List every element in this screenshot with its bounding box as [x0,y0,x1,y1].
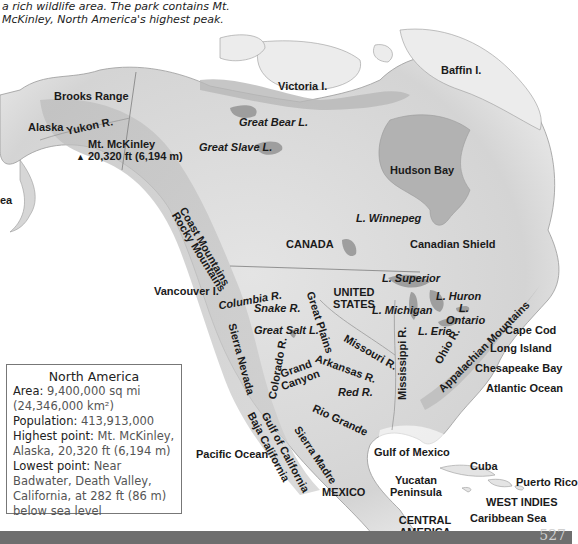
label-pacific-ocean: Pacific Ocean [196,448,268,460]
label-great-slave-lake: Great Slave L. [199,141,272,153]
label-yucatan-peninsula: Yucatan Peninsula [386,474,446,498]
label-canada: CANADA [286,238,334,250]
lake-ontario-text: L. Ontario [446,302,482,326]
label-cuba: Cuba [470,460,498,472]
factbox-title: North America [13,369,175,384]
fact-box: North America Area: 9,400,000 sq mi (24,… [6,364,182,514]
map-caption: a rich wildlife area. The park contains … [2,0,232,26]
label-alaska: Alaska [28,121,63,133]
label-snake-river: Snake R. [254,302,300,314]
label-west-indies: WEST INDIES [486,496,558,508]
factbox-area: Area: 9,400,000 sq mi (24,346,000 km²) [13,384,175,414]
peak-triangle-icon: ▲ [76,152,85,162]
area-label: Area: [13,384,43,398]
arctic-island-small [373,45,392,62]
label-puerto-rico: Puerto Rico [516,476,578,488]
label-red-river: Red R. [338,386,373,398]
label-great-salt-lake: Great Salt L. [254,324,319,336]
label-lake-huron: L. Huron [436,290,481,302]
mckinley-elevation-text: 20,320 ft (6,194 m) [88,150,183,162]
label-baffin-island: Baffin I. [441,64,481,76]
label-hudson-bay: Hudson Bay [390,164,454,176]
label-lake-michigan: L. Michigan [372,304,433,316]
label-mt-mckinley: Mt. McKinley [88,138,155,150]
page-number: 527 [539,527,566,543]
united-states-text: UNITED STATES [330,286,378,310]
label-lake-ontario: L. Ontario [446,302,482,326]
label-mexico: MEXICO [322,486,365,498]
label-sea-partial: ea [0,194,12,206]
factbox-lowest: Lowest point: Near Badwater, Death Valle… [13,459,175,519]
lowest-label: Lowest point: [13,459,90,473]
label-vancouver-island: Vancouver I. [154,285,219,297]
label-atlantic-ocean: Atlantic Ocean [486,382,563,394]
page-footer-bar [0,531,572,544]
label-canadian-shield: Canadian Shield [410,238,496,250]
population-label: Population: [13,414,77,428]
label-brooks-range: Brooks Range [54,90,129,102]
population-value: 413,913,000 [81,414,154,428]
label-lake-winnepeg: L. Winnepeg [356,212,421,224]
label-great-bear-lake: Great Bear L. [239,116,308,128]
factbox-population: Population: 413,913,000 [13,414,175,429]
hispaniola-island [488,479,512,487]
label-mt-mckinley-elevation: ▲ 20,320 ft (6,194 m) [76,150,183,163]
label-lake-superior: L. Superior [382,272,440,284]
alaska-peninsula [10,160,35,232]
label-caribbean-sea: Caribbean Sea [470,512,546,524]
yucatan-text: Yucatan Peninsula [386,474,446,498]
highest-label: Highest point: [13,429,94,443]
label-gulf-of-mexico: Gulf of Mexico [374,446,450,458]
label-long-island: Long Island [490,342,552,354]
label-cape-cod: Cape Cod [505,324,556,336]
jamaica-island [462,487,471,492]
label-chesapeake-bay: Chesapeake Bay [475,362,562,374]
factbox-highest: Highest point: Mt. McKinley, Alaska, 20,… [13,429,175,459]
label-united-states: UNITED STATES [330,286,378,310]
label-mississippi-river: Mississippi R. [396,327,408,400]
label-victoria-island: Victoria I. [278,80,327,92]
